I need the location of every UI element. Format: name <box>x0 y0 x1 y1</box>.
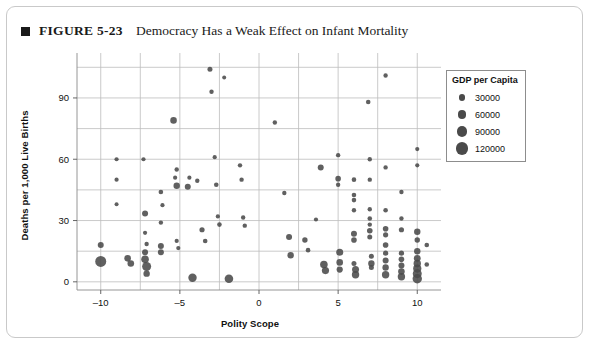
data-point <box>366 100 371 105</box>
data-point <box>367 234 372 239</box>
data-point <box>415 147 419 151</box>
data-point <box>173 176 177 180</box>
data-point <box>399 257 405 263</box>
data-point <box>336 249 343 256</box>
legend-marker-icon <box>452 126 472 137</box>
legend-marker-icon <box>452 142 472 155</box>
figure-frame: FIGURE 5-23 Democracy Has a Weak Effect … <box>6 6 583 338</box>
x-tick-label: –5 <box>175 297 186 308</box>
data-point <box>414 248 420 254</box>
data-point <box>383 257 389 263</box>
data-point <box>424 243 429 248</box>
data-point <box>158 249 164 255</box>
data-point <box>302 237 307 242</box>
x-tick-label: 10 <box>412 297 423 308</box>
legend-label: 60000 <box>475 110 500 120</box>
data-point <box>322 267 329 274</box>
data-point <box>306 248 311 253</box>
y-tick-label: 0 <box>64 276 69 287</box>
data-point <box>95 256 106 267</box>
data-point <box>383 232 388 237</box>
data-point <box>369 265 374 270</box>
data-point <box>337 266 343 272</box>
data-point <box>282 191 286 195</box>
x-tick-label: –10 <box>93 297 109 308</box>
data-point <box>399 190 403 194</box>
data-point <box>383 73 387 77</box>
data-point <box>383 165 387 169</box>
data-point <box>399 251 404 256</box>
data-point <box>273 120 277 124</box>
y-tick-label: 90 <box>58 92 69 103</box>
data-point <box>141 256 149 264</box>
data-point <box>209 90 213 94</box>
data-point <box>217 222 222 227</box>
data-point <box>188 274 196 282</box>
data-point <box>399 227 404 232</box>
data-point <box>383 251 388 256</box>
data-point <box>351 237 357 243</box>
data-point <box>369 254 374 259</box>
scatter-chart: –10–505100306090 <box>7 7 584 339</box>
size-legend: GDP per Capita 300006000090000120000 <box>446 70 526 162</box>
data-point <box>336 183 340 187</box>
legend-entry: 60000 <box>452 106 520 123</box>
data-point <box>158 243 164 249</box>
data-point <box>141 157 145 161</box>
legend-marker-icon <box>452 110 472 119</box>
data-point <box>207 67 212 72</box>
x-tick-label: 5 <box>335 297 340 308</box>
data-point <box>415 237 420 242</box>
legend-label: 90000 <box>475 127 500 137</box>
data-point <box>415 163 419 167</box>
data-point <box>352 208 356 212</box>
data-point <box>216 214 220 218</box>
data-point <box>383 226 389 232</box>
data-point <box>320 261 328 269</box>
legend-entry: 30000 <box>452 89 520 106</box>
data-point <box>413 274 422 283</box>
data-point <box>336 259 343 266</box>
legend-entry: 90000 <box>452 123 520 140</box>
data-point <box>185 184 191 190</box>
data-point <box>398 262 404 268</box>
x-tick-label: 0 <box>256 297 261 308</box>
data-point <box>174 183 180 189</box>
data-point <box>241 215 245 219</box>
data-point <box>382 264 388 270</box>
legend-label: 30000 <box>475 93 500 103</box>
data-point <box>336 153 340 157</box>
data-point <box>243 223 247 227</box>
data-point <box>352 177 357 182</box>
data-point <box>175 167 179 171</box>
data-point <box>143 231 147 235</box>
data-point <box>222 76 226 80</box>
data-point <box>351 261 356 266</box>
data-point <box>286 234 292 240</box>
data-point <box>213 155 217 159</box>
data-point <box>368 177 372 181</box>
data-point <box>159 220 163 224</box>
data-point <box>143 270 149 276</box>
legend-entry-list: 300006000090000120000 <box>452 89 520 157</box>
y-tick-label: 60 <box>58 154 69 165</box>
data-point <box>352 193 357 198</box>
data-point <box>115 202 119 206</box>
data-point <box>382 271 389 278</box>
data-point <box>239 177 243 181</box>
data-point <box>175 239 179 243</box>
data-point <box>335 176 341 182</box>
data-point <box>176 246 180 250</box>
legend-title: GDP per Capita <box>452 75 520 85</box>
data-point <box>142 262 151 271</box>
data-point <box>368 222 372 226</box>
data-point <box>238 163 242 167</box>
y-tick-label: 30 <box>58 215 69 226</box>
data-point <box>368 157 372 161</box>
legend-label: 120000 <box>475 144 505 154</box>
data-point <box>160 203 164 207</box>
data-point <box>142 249 148 255</box>
data-point <box>195 178 199 182</box>
data-point <box>225 274 234 283</box>
data-point <box>367 216 372 221</box>
